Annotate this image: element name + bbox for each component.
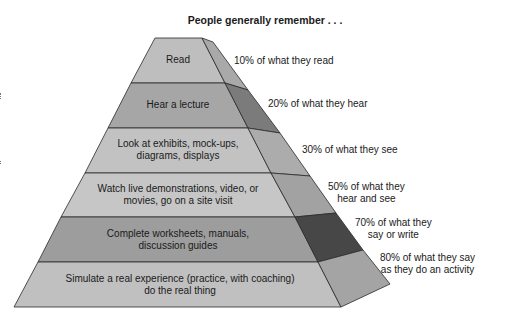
level-5-retention-line-1: 70% of what they [355,217,432,229]
level-4-activity-line-2: movies, go on a site visit [78,195,278,207]
level-3-retention: 30% of what they see [302,144,398,156]
level-2-activity: Hear a lecture [128,99,228,111]
level-6-retention-line-2: as they do an activity [380,264,475,276]
level-6-activity: Simulate a real experience (practice, wi… [40,273,320,297]
level-1-activity: Read [148,54,208,66]
level-6-retention: 80% of what they say as they do an activ… [380,252,475,276]
level-3-activity-line-1: Look at exhibits, mock-ups, [98,138,258,150]
level-6-activity-line-1: Simulate a real experience (practice, wi… [40,273,320,285]
level-5-activity-line-2: discussion guides [78,240,278,252]
level-1-activity-text: Read [166,54,190,65]
level-2-retention: 20% of what they hear [268,98,368,110]
level-3-retention-text: 30% of what they see [302,144,398,155]
level-4-retention-line-2: hear and see [328,193,405,205]
level-4-activity: Watch live demonstrations, video, or mov… [78,183,278,207]
level-5-retention: 70% of what they say or write [355,217,432,241]
level-5-activity: Complete worksheets, manuals, discussion… [78,228,278,252]
level-5-retention-line-2: say or write [355,229,432,241]
edge-artifact [0,161,4,164]
edge-artifact [0,93,4,99]
level-4-activity-line-1: Watch live demonstrations, video, or [78,183,278,195]
level-4-retention: 50% of what they hear and see [328,181,405,205]
level-1-retention-text: 10% of what they read [234,55,334,66]
level-2-activity-text: Hear a lecture [147,99,210,110]
level-5-activity-line-1: Complete worksheets, manuals, [78,228,278,240]
level-4-retention-line-1: 50% of what they [328,181,405,193]
level-1-retention: 10% of what they read [234,55,334,67]
level-3-activity-line-2: diagrams, displays [98,150,258,162]
level-6-retention-line-1: 80% of what they say [380,252,475,264]
level-6-activity-line-2: do the real thing [40,285,320,297]
level-2-retention-text: 20% of what they hear [268,98,368,109]
level-3-activity: Look at exhibits, mock-ups, diagrams, di… [98,138,258,162]
